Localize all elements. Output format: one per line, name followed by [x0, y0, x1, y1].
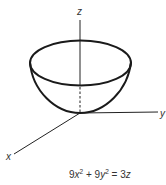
x-axis-label: x	[5, 151, 12, 162]
equation: 9x2 + 9y2 = 3z	[69, 168, 131, 180]
eq-plus: + 9	[83, 169, 100, 180]
paraboloid-diagram: z y x 9x2 + 9y2 = 3z	[0, 0, 166, 185]
x-axis	[14, 113, 80, 154]
eq-equals: = 3	[109, 169, 126, 180]
z-axis-label: z	[76, 6, 82, 17]
y-axis-label: y	[159, 108, 166, 119]
eq-var-z: z	[125, 169, 131, 180]
